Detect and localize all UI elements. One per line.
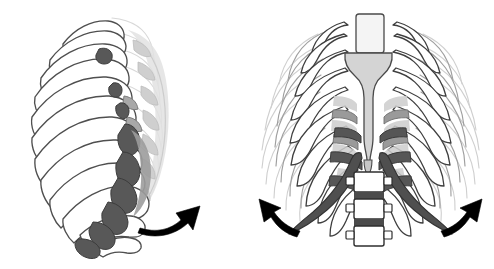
manubrium [356,14,384,53]
rib-cage-illustration [0,0,494,269]
intervertebral-disc [354,219,384,226]
figure-root: Lateral and anterior views of the thorac… [0,0,494,269]
intervertebral-disc [354,192,384,199]
lumbar-vertebrae [346,172,392,246]
